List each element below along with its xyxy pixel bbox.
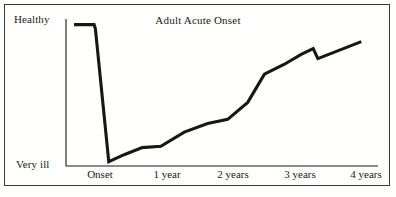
data-series-line <box>74 25 361 162</box>
figure-container: Adult Acute Onset Healthy Very ill Onset… <box>0 0 396 197</box>
plot-area <box>0 0 396 197</box>
